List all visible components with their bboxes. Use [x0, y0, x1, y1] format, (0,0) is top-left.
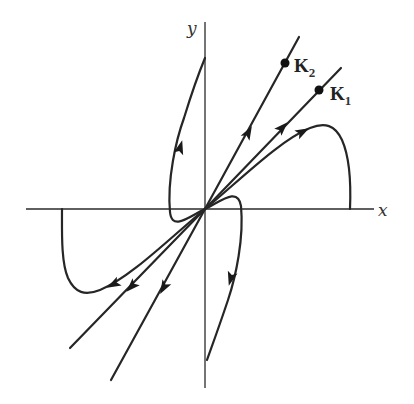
eigenvector-k1-marker: K1 [315, 83, 352, 108]
k2-label: K2 [294, 55, 315, 80]
arrow-right-arch-icon [294, 124, 311, 139]
eigenvector-k2-marker: K2 [281, 55, 316, 80]
axes: x y [26, 18, 388, 388]
phase-portrait-diagram: x y [0, 0, 414, 404]
trajectory-upper-left [169, 58, 205, 222]
k1-label: K1 [330, 83, 351, 108]
arrow-k1-lower-icon [123, 278, 140, 295]
trajectory-lower-right [205, 196, 242, 360]
y-axis-label: y [186, 18, 197, 38]
x-axis-label: x [378, 200, 388, 220]
trajectory-left-arch [62, 209, 205, 293]
k2-dot [281, 59, 290, 68]
k1-dot [315, 86, 324, 95]
